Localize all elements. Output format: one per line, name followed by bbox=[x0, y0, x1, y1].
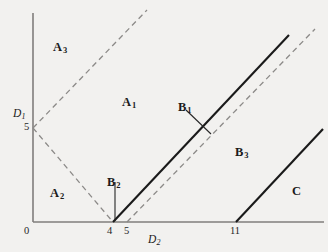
x-tick-0: 0 bbox=[24, 226, 29, 237]
figure-container: D1 D2 5 0 4 5 11 A3 A1 A2 B1 B2 B3 C bbox=[0, 0, 328, 252]
x-tick-4: 4 bbox=[107, 226, 112, 237]
region-label-b3: B3 bbox=[235, 146, 249, 159]
x-tick-5: 5 bbox=[124, 226, 129, 237]
region-label-a3: A3 bbox=[53, 41, 67, 54]
plot-canvas bbox=[0, 0, 328, 252]
y-axis-label: D1 bbox=[13, 108, 26, 121]
solid-c-boundary bbox=[236, 129, 323, 222]
y-tick-5: 5 bbox=[24, 122, 29, 133]
x-axis-label: D2 bbox=[148, 234, 161, 247]
region-label-a2: A2 bbox=[50, 187, 64, 200]
dashed-upper-boundary bbox=[33, 10, 147, 128]
dashed-right-boundary bbox=[127, 29, 315, 222]
dashed-lower-boundary bbox=[33, 128, 113, 222]
region-label-c: C bbox=[292, 185, 302, 198]
region-label-a1: A1 bbox=[122, 96, 136, 109]
region-label-b1: B1 bbox=[178, 101, 192, 114]
region-label-b2: B2 bbox=[107, 176, 121, 189]
x-tick-11: 11 bbox=[230, 226, 240, 237]
